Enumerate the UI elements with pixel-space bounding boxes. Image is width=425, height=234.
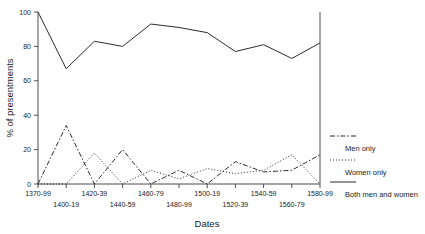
x-tick-label-1460-79: 1460-79 bbox=[138, 190, 164, 197]
x-tick-label-1480-99: 1480-99 bbox=[166, 201, 192, 208]
x-axis-title: Dates bbox=[195, 218, 220, 229]
chart-figure: 0 20 40 60 80 100 % of presentments 1370… bbox=[0, 0, 425, 234]
x-tick-label-1370-99: 1370-99 bbox=[25, 190, 51, 197]
x-tick-label-1560-79: 1560-79 bbox=[279, 201, 305, 208]
legend-label-both-men-and-women: Both men and women bbox=[345, 190, 418, 199]
series-both-men-and-women bbox=[38, 12, 320, 69]
y-tick-label-20: 20 bbox=[23, 146, 31, 153]
y-tick-label-100: 100 bbox=[19, 9, 31, 16]
legend-label-men-only: Men only bbox=[345, 144, 376, 153]
y-axis-ticks bbox=[34, 12, 38, 184]
series-men-only bbox=[38, 126, 320, 184]
chart-legend: Men only Women only Both men and women bbox=[330, 136, 418, 199]
x-tick-label-1500-19: 1500-19 bbox=[194, 190, 220, 197]
x-tick-label-1420-39: 1420-39 bbox=[82, 190, 108, 197]
y-tick-label-80: 80 bbox=[23, 43, 31, 50]
x-axis-tick-labels-row2: 1400-19 1440-59 1480-99 1520-39 1560-79 bbox=[53, 201, 304, 208]
x-tick-label-1540-59: 1540-59 bbox=[251, 190, 277, 197]
x-tick-label-1400-19: 1400-19 bbox=[53, 201, 79, 208]
x-axis-tick-labels-row1: 1370-99 1420-39 1460-79 1500-19 1540-59 … bbox=[25, 190, 333, 197]
legend-label-women-only: Women only bbox=[345, 168, 387, 177]
plot-frame bbox=[38, 12, 320, 184]
y-axis-title: % of presentments bbox=[4, 58, 15, 137]
y-tick-label-0: 0 bbox=[27, 181, 31, 188]
x-tick-label-1440-59: 1440-59 bbox=[110, 201, 136, 208]
x-tick-label-1520-39: 1520-39 bbox=[223, 201, 249, 208]
series-women-only bbox=[38, 153, 320, 184]
x-axis-ticks bbox=[38, 184, 320, 188]
y-tick-label-40: 40 bbox=[23, 112, 31, 119]
line-chart-canvas: 0 20 40 60 80 100 % of presentments 1370… bbox=[0, 0, 425, 234]
x-tick-label-1580-99: 1580-99 bbox=[307, 190, 333, 197]
data-series-group bbox=[38, 12, 320, 184]
y-tick-label-60: 60 bbox=[23, 77, 31, 84]
y-axis-tick-labels: 0 20 40 60 80 100 bbox=[19, 9, 31, 188]
